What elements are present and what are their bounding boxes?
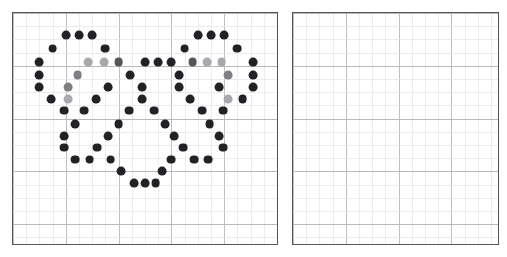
grid-dot[interactable] [215, 131, 224, 140]
grid-dot[interactable] [64, 94, 73, 103]
grid-dot[interactable] [170, 131, 179, 140]
grid-dot[interactable] [179, 143, 188, 152]
grid-dot[interactable] [180, 44, 189, 53]
grid-dot[interactable] [205, 119, 214, 128]
grid-dot[interactable] [104, 83, 113, 92]
grid-dot[interactable] [249, 57, 258, 66]
grid-dot[interactable] [233, 44, 242, 53]
grid-dot[interactable] [249, 71, 258, 80]
grid-dot[interactable] [114, 57, 123, 66]
grid-dot[interactable] [151, 179, 160, 188]
grid-dot[interactable] [126, 71, 135, 80]
grid-dot[interactable] [85, 155, 94, 164]
grid-dot[interactable] [189, 155, 198, 164]
grid-dot[interactable] [249, 83, 258, 92]
grid-dot[interactable] [197, 106, 206, 115]
grid-dot[interactable] [193, 31, 202, 40]
grid-dot[interactable] [224, 71, 233, 80]
grid-dot[interactable] [203, 57, 212, 66]
grid-dot[interactable] [60, 106, 69, 115]
grid-dot[interactable] [138, 83, 147, 92]
dot-cluster-empty[interactable] [293, 13, 498, 244]
grid-dot[interactable] [88, 31, 97, 40]
grid-dot[interactable] [160, 119, 169, 128]
grid-dot[interactable] [101, 44, 110, 53]
grid-dot[interactable] [80, 106, 89, 115]
empty-grid-panel[interactable] [292, 12, 499, 245]
grid-dot[interactable] [71, 119, 80, 128]
grid-dot[interactable] [104, 131, 113, 140]
grid-dot[interactable] [138, 94, 147, 103]
grid-dot[interactable] [130, 179, 139, 188]
grid-dot[interactable] [238, 94, 247, 103]
grid-dot[interactable] [93, 143, 102, 152]
grid-dot[interactable] [125, 106, 134, 115]
grid-dot[interactable] [218, 143, 227, 152]
grid-dot[interactable] [167, 57, 176, 66]
grid-dot[interactable] [217, 57, 226, 66]
grid-dot[interactable] [64, 83, 73, 92]
grid-dot[interactable] [175, 83, 184, 92]
grid-dot[interactable] [35, 57, 44, 66]
grid-dot[interactable] [106, 155, 115, 164]
screenshot-root [0, 0, 507, 257]
grid-dot[interactable] [48, 44, 57, 53]
grid-dot[interactable] [154, 57, 163, 66]
grid-dot[interactable] [158, 167, 167, 176]
grid-dot[interactable] [73, 71, 82, 80]
grid-dot[interactable] [224, 94, 233, 103]
grid-dot[interactable] [35, 71, 44, 80]
grid-dot[interactable] [175, 71, 184, 80]
grid-dot[interactable] [60, 143, 69, 152]
grid-dot[interactable] [220, 31, 229, 40]
dot-cluster-heart[interactable] [13, 13, 277, 244]
grid-dot[interactable] [150, 106, 159, 115]
grid-dot[interactable] [84, 57, 93, 66]
grid-dot[interactable] [215, 83, 224, 92]
grid-dot[interactable] [92, 94, 101, 103]
grid-dot[interactable] [185, 94, 194, 103]
grid-dot[interactable] [114, 119, 123, 128]
grid-dot[interactable] [141, 57, 150, 66]
grid-dot[interactable] [167, 155, 176, 164]
grid-dot[interactable] [117, 167, 126, 176]
grid-dot[interactable] [60, 131, 69, 140]
grid-dot[interactable] [100, 57, 109, 66]
grid-dot[interactable] [204, 155, 213, 164]
grid-dot[interactable] [61, 31, 70, 40]
grid-dot[interactable] [35, 83, 44, 92]
grid-dot[interactable] [188, 57, 197, 66]
grid-dot[interactable] [218, 106, 227, 115]
grid-dot[interactable] [207, 31, 216, 40]
grid-dot[interactable] [75, 31, 84, 40]
grid-dot[interactable] [71, 155, 80, 164]
grid-dot[interactable] [141, 179, 150, 188]
heart-pattern-panel[interactable] [12, 12, 278, 245]
grid-dot[interactable] [47, 94, 56, 103]
